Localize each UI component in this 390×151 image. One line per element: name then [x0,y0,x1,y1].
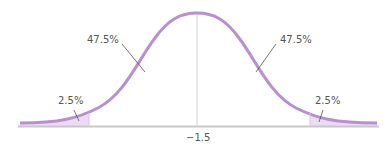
right-center-leader [256,44,276,72]
left-tail-percent-label: 2.5% [58,95,83,106]
bell-curve [20,13,377,123]
normal-curve-chart [0,0,390,151]
left-center-percent-label: 47.5% [87,34,119,45]
right-tail-percent-label: 2.5% [315,95,340,106]
right-center-percent-label: 47.5% [280,34,312,45]
center-tick-label: −1.5 [186,132,210,143]
